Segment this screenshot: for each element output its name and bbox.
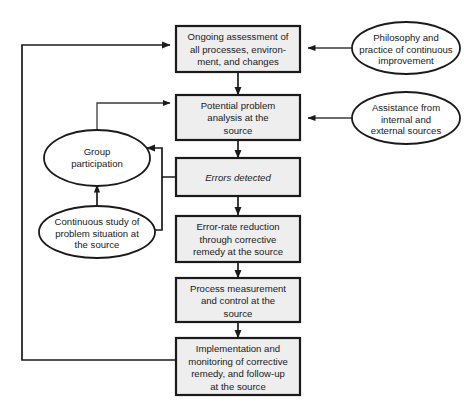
flowchart-canvas: Ongoing assessment of all processes, env…	[0, 0, 473, 408]
box-label-line: Potential problem	[201, 100, 276, 111]
process-box-implementation-monitoring[interactable]: Implementation and monitoring of correct…	[176, 338, 300, 395]
box-label-line: all processes, environ-	[190, 44, 286, 55]
box-label-line: source	[224, 308, 253, 319]
box-label-line: Error-rate reduction	[196, 221, 279, 232]
ellipse-label-line: participation	[71, 158, 123, 169]
box-label-line: Process measurement	[190, 283, 286, 294]
process-box-errors-detected[interactable]: Errors detected	[176, 158, 300, 196]
ellipse-label-line: Group	[84, 146, 111, 157]
box-label-line: ment, and changes	[197, 56, 279, 67]
box-label-line: monitoring of corrective	[188, 356, 288, 367]
box-label-line: at the source	[210, 381, 265, 392]
connector-errors-to-group	[147, 148, 176, 177]
box-label-line: Ongoing assessment of	[188, 31, 289, 42]
flowchart-svg: Ongoing assessment of all processes, env…	[0, 0, 473, 408]
box-label-line: remedy, and follow-up	[191, 368, 285, 379]
ellipse-label-line: practice of continuous	[359, 44, 453, 55]
box-label-line: source	[224, 125, 253, 136]
box-label-line: Errors detected	[205, 172, 271, 183]
ellipse-label-line: the source	[75, 239, 120, 250]
connector-implementation-feedback-to-ongoing	[22, 45, 176, 360]
ellipse-label-line: Philosophy and	[373, 32, 439, 43]
ellipse-label-line: Assistance from	[372, 102, 440, 113]
box-label-line: analysis at the	[207, 112, 268, 123]
ellipse-label-line: internal and	[381, 114, 431, 125]
box-label-line: remedy at the source	[193, 246, 283, 257]
ellipse-label-line: Continuous study of	[55, 216, 140, 227]
ellipse-group-participation[interactable]: Group participation	[44, 130, 150, 186]
ellipse-philosophy-practice[interactable]: Philosophy and practice of continuous im…	[352, 22, 460, 74]
ellipse-label-line: external sources	[371, 125, 442, 136]
ellipse-continuous-study[interactable]: Continuous study of problem situation at…	[39, 206, 155, 258]
process-box-ongoing-assessment[interactable]: Ongoing assessment of all processes, env…	[176, 26, 300, 72]
connector-group-to-potential	[97, 103, 170, 130]
ellipse-label-line: problem situation at	[55, 228, 139, 239]
process-box-process-measurement[interactable]: Process measurement and control at the s…	[176, 278, 300, 322]
process-box-potential-problem-analysis[interactable]: Potential problem analysis at the source	[176, 95, 300, 140]
process-box-error-rate-reduction[interactable]: Error-rate reduction through corrective …	[176, 216, 300, 262]
ellipse-assistance-sources[interactable]: Assistance from internal and external so…	[352, 92, 460, 144]
box-label-line: and control at the	[201, 295, 275, 306]
ellipse-label-line: improvement	[378, 55, 434, 66]
box-label-line: through corrective	[200, 234, 277, 245]
box-label-line: Implementation and	[196, 343, 280, 354]
